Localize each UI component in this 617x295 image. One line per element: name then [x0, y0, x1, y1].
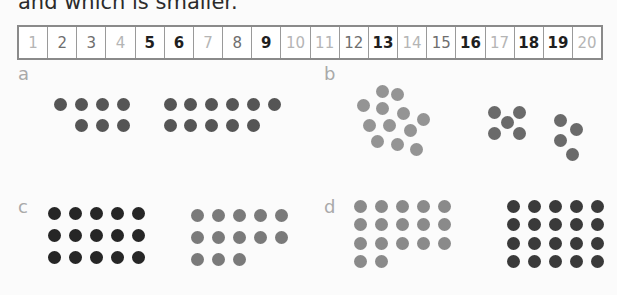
dot-a-right	[205, 98, 218, 111]
dot-c-left	[111, 207, 124, 220]
dot-a-left	[96, 98, 109, 111]
dot-c-right	[212, 209, 225, 222]
dot-d-right	[528, 200, 541, 213]
number-cell-9: 9	[252, 27, 281, 58]
dot-d-right	[549, 255, 562, 268]
dot-d-left	[354, 200, 367, 213]
dot-d-left	[375, 200, 388, 213]
number-cell-15: 15	[427, 27, 456, 58]
dot-a-left	[54, 98, 67, 111]
dot-d-right	[591, 218, 604, 231]
dot-b-middle	[488, 127, 501, 140]
dot-d-right	[528, 237, 541, 250]
dot-d-right	[507, 255, 520, 268]
number-cell-14: 14	[398, 27, 427, 58]
dot-c-left	[132, 207, 145, 220]
dot-d-left	[438, 237, 451, 250]
dot-d-left	[396, 237, 409, 250]
dot-c-right	[191, 209, 204, 222]
dot-d-left	[354, 218, 367, 231]
dot-c-left	[90, 251, 103, 264]
number-cell-10: 10	[281, 27, 310, 58]
dot-c-left	[90, 229, 103, 242]
dot-d-left	[375, 218, 388, 231]
dot-d-right	[549, 218, 562, 231]
dot-d-right	[570, 237, 583, 250]
panel-label-b: b	[324, 63, 335, 84]
dot-c-right	[275, 209, 288, 222]
panel-label-a: a	[18, 63, 29, 84]
dot-d-left	[396, 218, 409, 231]
number-cell-19: 19	[544, 27, 573, 58]
dot-c-left	[111, 251, 124, 264]
dot-d-right	[549, 200, 562, 213]
dot-a-right	[247, 98, 260, 111]
dot-c-left	[132, 229, 145, 242]
dot-d-right	[570, 218, 583, 231]
dot-a-right	[205, 119, 218, 132]
dot-b-right	[554, 134, 567, 147]
dot-d-left	[438, 218, 451, 231]
dot-d-right	[528, 255, 541, 268]
dot-a-left	[96, 119, 109, 132]
dot-c-left	[48, 229, 61, 242]
dot-c-left	[69, 229, 82, 242]
number-cell-11: 11	[311, 27, 340, 58]
dot-d-right	[591, 255, 604, 268]
dot-c-right	[233, 231, 246, 244]
number-cell-4: 4	[106, 27, 135, 58]
number-cell-17: 17	[486, 27, 515, 58]
dot-c-right	[191, 253, 204, 266]
dot-b-middle	[513, 106, 526, 119]
dot-b-left	[404, 124, 417, 137]
panel-label-c: c	[18, 196, 28, 217]
dot-b-middle	[513, 127, 526, 140]
number-cell-6: 6	[165, 27, 194, 58]
dot-c-left	[132, 251, 145, 264]
dot-d-left	[438, 200, 451, 213]
number-track: 1234567891011121314151617181920	[17, 25, 603, 60]
number-cell-7: 7	[194, 27, 223, 58]
number-cell-3: 3	[77, 27, 106, 58]
dot-b-middle	[488, 106, 501, 119]
dot-d-left	[417, 218, 430, 231]
dot-b-left	[417, 113, 430, 126]
dot-c-left	[48, 207, 61, 220]
dot-b-left	[371, 135, 384, 148]
dot-c-right	[212, 253, 225, 266]
number-cell-12: 12	[340, 27, 369, 58]
dot-a-right	[184, 98, 197, 111]
dot-b-left	[363, 119, 376, 132]
dot-d-left	[396, 200, 409, 213]
dot-d-right	[507, 237, 520, 250]
dot-d-left	[417, 200, 430, 213]
dot-a-left	[117, 119, 130, 132]
dot-c-right	[233, 253, 246, 266]
dot-d-left	[375, 237, 388, 250]
number-cell-2: 2	[48, 27, 77, 58]
dot-a-right	[184, 119, 197, 132]
dot-c-left	[90, 207, 103, 220]
dot-c-right	[254, 209, 267, 222]
number-cell-1: 1	[19, 27, 48, 58]
dot-c-left	[69, 251, 82, 264]
dot-b-left	[376, 102, 389, 115]
dot-b-left	[391, 138, 404, 151]
dot-b-right	[566, 148, 579, 161]
dot-a-right	[164, 119, 177, 132]
dot-a-left	[75, 119, 88, 132]
dot-c-right	[254, 231, 267, 244]
dot-b-right	[570, 123, 583, 136]
dot-d-right	[570, 200, 583, 213]
dot-b-left	[383, 119, 396, 132]
dot-a-right	[226, 119, 239, 132]
dot-d-left	[375, 255, 388, 268]
dot-b-middle	[501, 116, 514, 129]
dot-b-right	[554, 114, 567, 127]
dot-b-left	[357, 99, 370, 112]
dot-d-right	[507, 200, 520, 213]
dot-a-left	[117, 98, 130, 111]
dot-b-left	[376, 85, 389, 98]
dot-c-left	[69, 207, 82, 220]
dot-a-right	[226, 98, 239, 111]
